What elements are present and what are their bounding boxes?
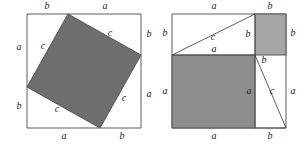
label-R-bot-a: a	[212, 130, 217, 141]
label-L-left-a: a	[17, 41, 22, 52]
label-L-c-lower-right: c	[122, 92, 127, 103]
label-R-left-b: b	[163, 27, 168, 38]
right-square-b	[255, 14, 286, 55]
figure-canvas: baabbaabcccc abbabaabcbabac	[0, 0, 305, 149]
label-L-left-b: b	[17, 100, 22, 111]
label-R-right-b: b	[291, 27, 296, 38]
label-R-inner-a-2: a	[247, 85, 252, 96]
label-L-right-b: b	[147, 28, 152, 39]
left-panel: baabbaabcccc	[17, 0, 152, 141]
label-R-c-lower: c	[270, 85, 275, 96]
label-R-inner-b-1: b	[246, 28, 251, 39]
label-R-top-b: b	[268, 0, 273, 11]
label-L-top-b: b	[45, 0, 50, 11]
label-L-top-a: a	[103, 0, 108, 11]
right-panel: abbabaabcbabac	[163, 0, 296, 141]
label-R-inner-b-2: b	[262, 54, 267, 65]
label-R-c-upper: c	[211, 31, 216, 42]
label-L-bot-b: b	[120, 130, 125, 141]
label-L-c-lower-left: c	[55, 103, 60, 114]
label-R-inner-a-1: a	[212, 43, 217, 54]
label-R-top-a: a	[212, 0, 217, 11]
label-R-bot-b: b	[268, 130, 273, 141]
label-R-right-a: a	[291, 85, 296, 96]
label-L-right-a: a	[147, 88, 152, 99]
label-L-c-upper-right: c	[108, 27, 113, 38]
label-L-c-upper-left: c	[41, 40, 46, 51]
label-R-left-a: a	[163, 85, 168, 96]
geometry-figure: baabbaabcccc abbabaabcbabac	[0, 0, 305, 149]
label-L-bot-a: a	[62, 130, 67, 141]
right-square-a	[172, 55, 255, 128]
